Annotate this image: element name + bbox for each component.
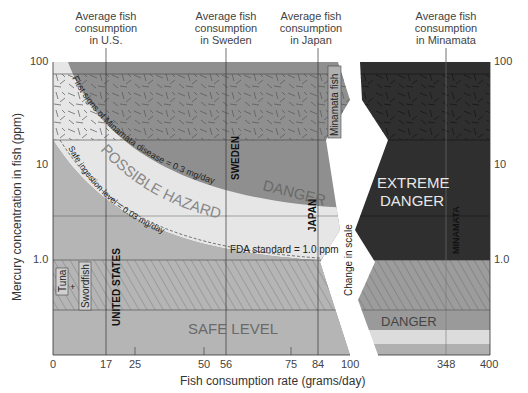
top-annotation-japan: Average fish consumption in Japan [271, 10, 351, 46]
top-us-line1: Average fish [66, 10, 146, 22]
tuna-label: Tuna [57, 269, 68, 292]
x-tick-56: 56 [220, 358, 232, 370]
y-tick-10-right: 10 [494, 158, 506, 170]
top-annotation-sweden: Average fish consumption in Sweden [186, 10, 266, 46]
x-tick-400: 400 [480, 358, 498, 370]
top-japan-line1: Average fish [271, 10, 351, 22]
top-sweden-line3: in Sweden [186, 34, 266, 46]
x-axis-label: Fish consumption rate (grams/day) [180, 374, 365, 388]
safe-level-label: SAFE LEVEL [188, 320, 278, 337]
chart-canvas: First signs of Minamata disease = 0.3 mg… [0, 0, 528, 393]
united-states-marker-label: UNITED STATES [111, 248, 122, 326]
extreme-danger-label-line2: DANGER [380, 192, 444, 209]
y-tick-100-left: 100 [30, 55, 48, 67]
y-tick-1-left: 1.0 [33, 253, 48, 265]
minamata-fish-label: Minamata fish [329, 74, 340, 136]
x-tick-17: 17 [100, 358, 112, 370]
y-tick-100-right: 100 [494, 55, 512, 67]
y-axis-label: Mercury concentration in fish (ppm) [10, 102, 24, 312]
x-tick-50: 50 [198, 358, 210, 370]
y-tick-1-right: 1.0 [494, 253, 509, 265]
fda-standard-label: FDA standard = 1.0 ppm [230, 244, 339, 255]
sweden-marker-label: SWEDEN [230, 136, 241, 180]
top-annotation-us: Average fish consumption in U.S. [66, 10, 146, 46]
swordfish-label: Swordfish [80, 264, 91, 308]
x-tick-25: 25 [129, 358, 141, 370]
top-minamata-line3: in Minamata [406, 34, 486, 46]
top-sweden-line2: consumption [186, 22, 266, 34]
top-japan-line3: in Japan [271, 34, 351, 46]
extreme-danger-label-line1: EXTREME [377, 174, 450, 191]
right-danger-label: DANGER [381, 314, 437, 329]
x-tick-348: 348 [437, 358, 455, 370]
top-us-line3: in U.S. [66, 34, 146, 46]
top-minamata-line2: consumption [406, 22, 486, 34]
change-in-scale-label: Change in scale [343, 224, 354, 296]
plus-label: + [70, 282, 75, 292]
top-sweden-line1: Average fish [186, 10, 266, 22]
x-tick-84: 84 [312, 358, 324, 370]
x-tick-100: 100 [341, 358, 359, 370]
top-annotation-minamata: Average fish consumption in Minamata [406, 10, 486, 46]
x-tick-75: 75 [285, 358, 297, 370]
top-minamata-line1: Average fish [406, 10, 486, 22]
japan-marker-label: JAPAN [307, 199, 318, 232]
minamata-marker-label: MINAMATA [451, 206, 461, 254]
top-japan-line2: consumption [271, 22, 351, 34]
x-tick-0: 0 [50, 358, 56, 370]
y-tick-10-left: 10 [36, 158, 48, 170]
top-us-line2: consumption [66, 22, 146, 34]
